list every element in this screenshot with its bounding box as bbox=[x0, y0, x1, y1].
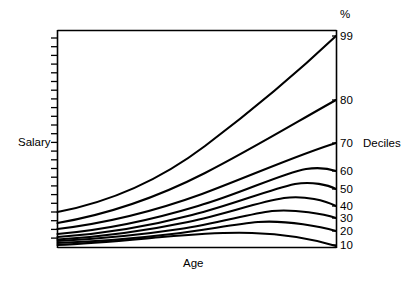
tick-label-40: 40 bbox=[340, 200, 353, 212]
tick-label-60: 60 bbox=[340, 165, 353, 177]
plot-axes bbox=[58, 30, 337, 248]
right-axis-labels: 99 80 70 60 50 40 30 20 10 bbox=[340, 30, 353, 251]
y-axis-title-salary: Salary bbox=[18, 136, 51, 148]
tick-label-80: 80 bbox=[340, 94, 353, 106]
left-axis-ticks bbox=[51, 38, 57, 238]
decile-curve-10 bbox=[58, 233, 337, 246]
percent-unit-label: % bbox=[340, 8, 350, 20]
salary-deciles-chart: 99 80 70 60 50 40 30 20 10 % Salary Age … bbox=[0, 0, 417, 282]
x-axis-title-age: Age bbox=[183, 257, 203, 269]
chart-container: 99 80 70 60 50 40 30 20 10 % Salary Age … bbox=[0, 0, 417, 282]
decile-curves bbox=[58, 36, 337, 246]
tick-label-20: 20 bbox=[340, 225, 353, 237]
tick-label-99: 99 bbox=[340, 30, 353, 42]
tick-label-30: 30 bbox=[340, 212, 353, 224]
deciles-legend-label: Deciles bbox=[363, 137, 401, 149]
decile-curve-70 bbox=[58, 143, 337, 229]
tick-label-10: 10 bbox=[340, 239, 353, 251]
decile-curve-80 bbox=[58, 100, 337, 223]
tick-label-50: 50 bbox=[340, 183, 353, 195]
tick-label-70: 70 bbox=[340, 137, 353, 149]
